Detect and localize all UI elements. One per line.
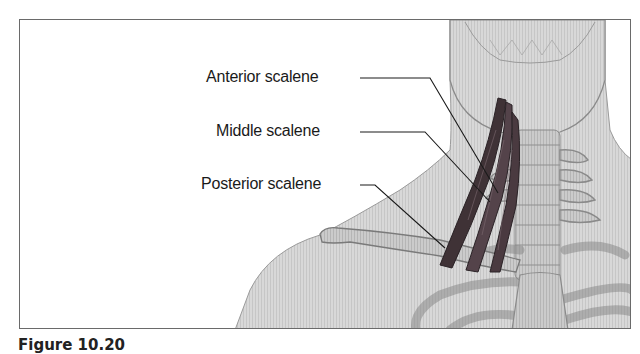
label-posterior-scalene: Posterior scalene <box>201 175 321 193</box>
label-anterior-scalene: Anterior scalene <box>206 68 318 86</box>
label-middle-scalene: Middle scalene <box>216 122 320 140</box>
sternum <box>512 273 568 330</box>
figure-number: Figure 10.20 <box>18 336 125 354</box>
anatomy-illustration <box>20 20 631 329</box>
figure-frame: Anterior scalene Middle scalene Posterio… <box>19 19 631 329</box>
figure-caption: Figure 10.20 <box>18 336 137 354</box>
